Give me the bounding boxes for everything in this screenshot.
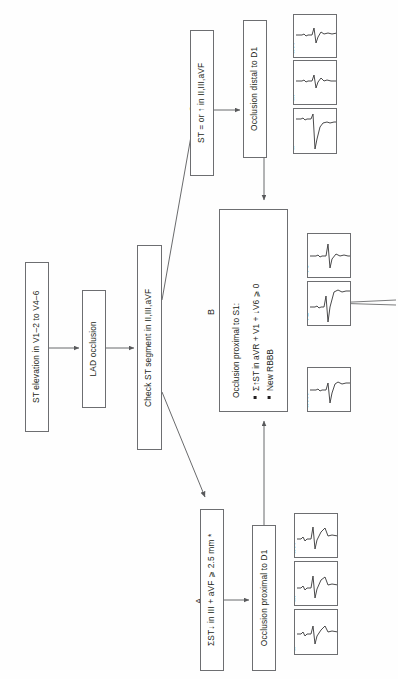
ecg-panel-c-II: II xyxy=(293,108,337,154)
node-lad-occlusion[interactable]: LAD occlusion xyxy=(82,290,106,408)
ecg-lead-label: V6 xyxy=(307,265,310,274)
node-branch-c-criteria-label: ST = or ↑ in II,III,aVF xyxy=(197,63,207,143)
ecg-panel-b-aVR: aVR xyxy=(307,367,351,412)
node-branch-b-bullet-1: New RBBB xyxy=(263,222,276,400)
node-branch-a-criteria-label: ΣST↓ in III + aVF ⩾ 2.5 mm * xyxy=(207,534,217,647)
ecg-lead-label: aVF xyxy=(293,40,296,54)
ecg-panel-a-aVF: aVF xyxy=(294,513,338,558)
node-start-label: ST elevation in V1–2 to V4–6 xyxy=(32,291,42,404)
ecg-panel-c-III: III xyxy=(293,60,337,105)
node-branch-c-criteria[interactable]: ST = or ↑ in II,III,aVF xyxy=(190,30,214,176)
node-start[interactable]: ST elevation in V1–2 to V4–6 xyxy=(25,262,49,432)
ecg-lead-label: aVF xyxy=(294,540,297,554)
node-check-st-segment-label: Check ST segment in II,III,aVF xyxy=(145,288,155,406)
ecg-lead-label: II xyxy=(293,146,296,150)
node-branch-b-bullet-0: Σ↑ST in aVR + V1 + ↓V6 ⩾ 0 xyxy=(249,222,262,400)
ecg-panel-b-V6: V6 xyxy=(307,233,351,278)
node-branch-b[interactable]: Occlusion proximal to S1: Σ↑ST in aVR + … xyxy=(219,209,288,412)
node-branch-a-criteria[interactable]: ΣST↓ in III + aVF ⩾ 2.5 mm * xyxy=(200,509,224,671)
node-branch-a-result[interactable]: Occlusion proximal to D1 xyxy=(252,525,276,671)
ecg-lead-label: III xyxy=(293,95,296,101)
ecg-panel-a-II: II xyxy=(294,609,338,655)
node-branch-c-result[interactable]: Occlusion distal to D1 xyxy=(243,20,267,158)
ecg-lead-label: II xyxy=(294,647,297,651)
branch-label-b: B xyxy=(208,307,214,317)
node-branch-c-result-label: Occlusion distal to D1 xyxy=(250,47,260,131)
node-check-st-segment[interactable]: Check ST segment in II,III,aVF xyxy=(137,245,162,450)
node-branch-b-header: Occlusion proximal to S1: xyxy=(229,222,242,398)
ecg-panel-b-V1: V1 xyxy=(307,281,351,326)
ecg-panel-c-aVF: aVF xyxy=(293,14,337,58)
ecg-lead-label: V1 xyxy=(307,313,310,322)
diagram-canvas: ST elevation in V1–2 to V4–6 LAD occlusi… xyxy=(0,0,398,679)
node-branch-b-bullet-list: Σ↑ST in aVR + V1 + ↓V6 ⩾ 0 New RBBB xyxy=(249,222,276,400)
ecg-panel-a-III: III xyxy=(294,561,338,606)
ecg-lead-label: III xyxy=(294,596,297,602)
ecg-lead-label: aVR xyxy=(307,393,310,408)
node-lad-occlusion-label: LAD occlusion xyxy=(89,321,99,376)
node-branch-a-result-label: Occlusion proximal to D1 xyxy=(259,550,269,647)
